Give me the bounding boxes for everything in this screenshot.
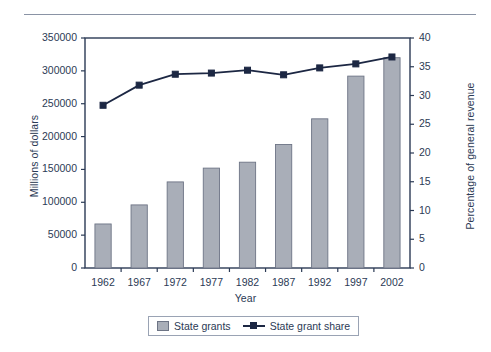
y-axis-left-tick-label: 0: [13, 261, 77, 273]
y-axis-right-tick-label: 20: [419, 146, 449, 158]
x-axis-title: Year: [0, 292, 491, 304]
bar-1972: [167, 182, 183, 268]
bar-1987: [275, 144, 291, 268]
bar-1967: [131, 205, 147, 268]
y-axis-right-tick-label: 10: [419, 204, 449, 216]
y-axis-left-tick-label: 100000: [13, 195, 77, 207]
y-axis-right-tick-label: 15: [419, 175, 449, 187]
bar-swatch-icon: [157, 321, 169, 331]
y-axis-right-tick-label: 30: [419, 89, 449, 101]
y-axis-right-title: Percentage of general revenue: [464, 81, 476, 231]
line-marker-2002: [389, 54, 395, 60]
line-marker-1977: [208, 70, 214, 76]
line-marker-1967: [136, 82, 142, 88]
line-marker-1987: [281, 72, 287, 78]
bar-1977: [203, 168, 219, 268]
bar-1997: [348, 76, 364, 268]
y-axis-right-tick-label: 25: [419, 117, 449, 129]
legend-label-state-grant-share: State grant share: [270, 320, 351, 332]
legend-item-state-grant-share: State grant share: [243, 320, 351, 332]
y-axis-left-tick-label: 50000: [13, 228, 77, 240]
legend-item-state-grants: State grants: [157, 320, 231, 332]
y-axis-right-tick-label: 35: [419, 60, 449, 72]
y-axis-left-tick-label: 350000: [13, 31, 77, 43]
y-axis-right-tick-label: 0: [419, 261, 449, 273]
line-swatch-icon: [243, 321, 265, 331]
chart-figure: Millions of dollars Percentage of genera…: [0, 0, 491, 352]
bar-1962: [95, 224, 111, 268]
line-marker-1992: [317, 65, 323, 71]
line-marker-1972: [172, 71, 178, 77]
bar-1982: [239, 162, 255, 268]
line-marker-1982: [245, 67, 251, 73]
legend-label-state-grants: State grants: [174, 320, 231, 332]
y-axis-right-tick-label: 40: [419, 31, 449, 43]
y-axis-left-tick-label: 250000: [13, 97, 77, 109]
line-marker-1997: [353, 61, 359, 67]
y-axis-left-tick-label: 200000: [13, 130, 77, 142]
y-axis-right-tick-label: 5: [419, 232, 449, 244]
bar-2002: [384, 58, 400, 268]
bar-1992: [312, 119, 328, 268]
y-axis-left-tick-label: 300000: [13, 64, 77, 76]
y-axis-left-tick-label: 150000: [13, 162, 77, 174]
x-axis-tick-label: 2002: [368, 276, 416, 288]
line-marker-1962: [100, 102, 106, 108]
chart-legend: State grants State grant share: [148, 316, 359, 336]
